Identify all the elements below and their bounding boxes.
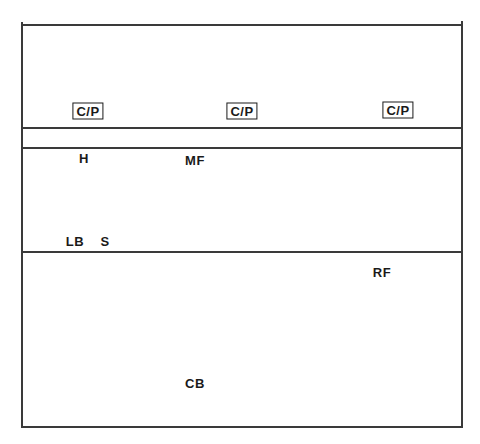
bottom-boundary-line xyxy=(22,426,463,428)
right-boundary-line xyxy=(461,21,463,428)
marker-cp-center: C/P xyxy=(226,103,257,120)
marker-s: S xyxy=(100,235,109,248)
marker-rf: RF xyxy=(373,266,391,279)
left-boundary-line xyxy=(21,22,23,428)
marker-cp-left: C/P xyxy=(72,103,103,120)
marker-lb: LB xyxy=(66,235,84,248)
marker-cp-right: C/P xyxy=(382,102,413,119)
top-boundary-line xyxy=(22,24,462,26)
marker-h: H xyxy=(79,152,89,165)
marker-mf: MF xyxy=(185,154,205,167)
field-diagram: C/P C/P C/P H MF LB S RF CB xyxy=(0,0,480,444)
middle-divider-line xyxy=(22,251,462,253)
second-divider-line xyxy=(22,147,462,149)
upper-divider-line xyxy=(22,127,462,129)
marker-cb: CB xyxy=(185,377,205,390)
